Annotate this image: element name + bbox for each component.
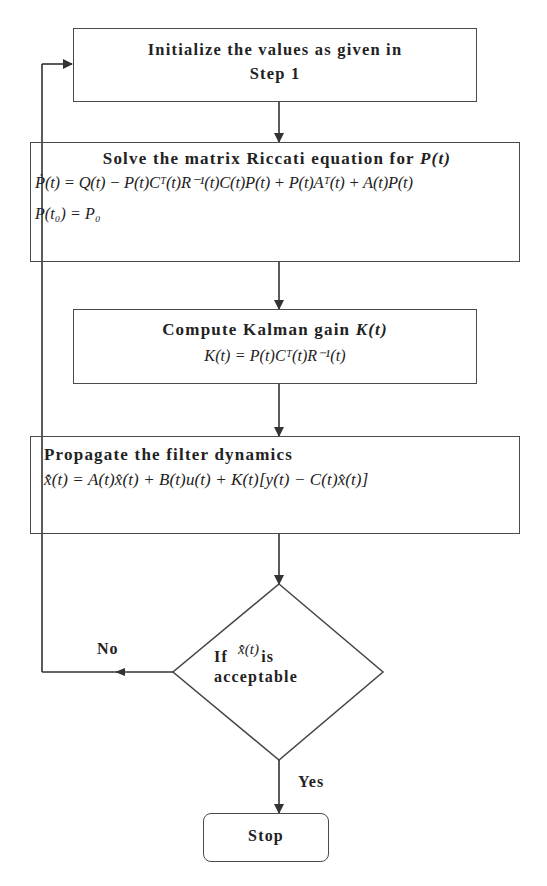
- riccati-title-var: P(t): [420, 149, 451, 168]
- stop-label: Stop: [248, 827, 284, 844]
- kalman-gain-title-var: K(t): [356, 320, 388, 339]
- decision-var: x̂̇(t): [238, 641, 259, 657]
- riccati-box: Solve the matrix Riccati equation for P(…: [30, 142, 520, 262]
- kalman-gain-title-text: Compute Kalman gain: [162, 320, 356, 339]
- riccati-initial-condition: P(t₀) = P₀: [35, 205, 519, 223]
- propagate-title: Propagate the filter dynamics: [44, 445, 519, 465]
- decision-prefix: If: [214, 648, 228, 665]
- riccati-title-text: Solve the matrix Riccati equation for: [103, 149, 420, 168]
- kalman-gain-box: Compute Kalman gain K(t) K(t) = P(t)Cᵀ(t…: [73, 309, 477, 384]
- decision-text: If x̂̇(t)is acceptable: [214, 648, 354, 686]
- propagate-equation: x̂̇(t) = A(t)x̂(t) + B(t)u(t) + K(t)[y(t…: [44, 470, 519, 490]
- init-box: Initialize the values as given in Step 1: [73, 28, 477, 102]
- no-label: No: [97, 640, 119, 658]
- kalman-filter-flowchart: Initialize the values as given in Step 1…: [0, 0, 547, 886]
- init-title-line2: Step 1: [74, 64, 476, 84]
- kalman-gain-equation: K(t) = P(t)Cᵀ(t)R⁻¹(t): [74, 346, 476, 365]
- yes-label: Yes: [298, 773, 324, 791]
- decision-suffix: is: [261, 648, 274, 665]
- init-title-line1: Initialize the values as given in: [74, 40, 476, 60]
- decision-line2: acceptable: [214, 668, 354, 686]
- propagate-box: Propagate the filter dynamics x̂̇(t) = A…: [30, 436, 520, 534]
- riccati-title: Solve the matrix Riccati equation for P(…: [35, 149, 519, 169]
- riccati-equation: Ṗ(t) = Q(t) − P(t)Cᵀ(t)R⁻¹(t)C(t)P(t) + …: [35, 173, 519, 193]
- kalman-gain-title: Compute Kalman gain K(t): [74, 320, 476, 340]
- stop-terminal: Stop: [203, 813, 329, 862]
